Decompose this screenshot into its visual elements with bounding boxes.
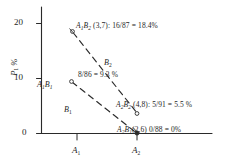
a2b2-factor-b-sub: 2 [128,104,131,110]
a1b2-equals: = [132,21,136,30]
a1b2-percent: 18.4% [138,21,158,30]
a1b2-separator: : [108,21,110,30]
figure-canvas: P1 % 20 10 0 A1 A2 A1B2 (3,7): 16/87 = 1… [0,0,229,165]
a2b2-fraction: 5/91 [152,100,166,109]
annotation-a1b1-value: 8/86 = 9.3 % [78,71,118,79]
a1b1-equals: = [94,70,98,79]
y-tick-label-10: 10 [14,73,23,82]
a2b1-fraction: 0/88 [149,125,163,134]
a1b2-factor-b-sub: 2 [88,25,91,31]
y-axis-label-unit: % [9,59,19,66]
x-tick-label-a1: A1 [72,146,80,156]
a1b2-fraction: 16/87 [112,21,130,30]
a1b1-fraction: 8/86 [78,70,92,79]
point-a2b2 [135,112,139,116]
annotation-a1b1: A1B1 [37,81,53,90]
a1b1-factor-b-sub: 1 [50,84,53,90]
y-axis-label-subscript: 1 [13,68,19,71]
a2b2-percent: 5.5 % [174,100,192,109]
x-tick-label-a2: A2 [132,146,140,156]
a2b2-separator: : [148,100,150,109]
annotation-a2b2: A2B2 (4,8): 5/91 = 5.5 % [116,101,192,110]
a2b1-equals: = [165,125,169,134]
y-tick-label-20: 20 [14,18,23,27]
y-tick-label-0: 0 [22,128,27,137]
series-label-b2: B2 [104,59,112,68]
a1b1-percent: 9.3 % [100,70,118,79]
a1b2-coords: (3,7) [93,21,108,30]
annotation-a1b2: A1B2 (3,7): 16/87 = 18.4% [76,22,158,31]
a2b1-coords: (2,6) [132,125,147,134]
series-label-b1: B1 [64,106,72,115]
annotation-a2b1: A2B1(2,6) 0/88 = 0% [117,126,181,135]
a2b1-percent: 0% [171,125,181,134]
point-a1b1 [70,80,74,84]
a2b2-coords: (4,8) [133,100,148,109]
a2b2-equals: = [168,100,172,109]
data-markers [70,30,139,135]
